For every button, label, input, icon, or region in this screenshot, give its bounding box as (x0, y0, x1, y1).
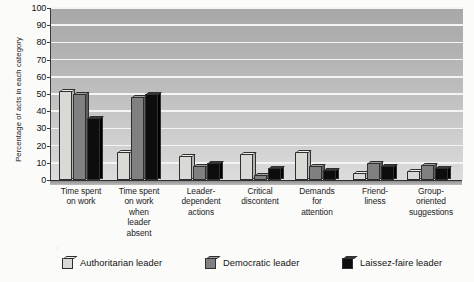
bar (73, 94, 86, 180)
x-axis-label-line: Leader- (167, 186, 235, 196)
y-tick-label: 10 (4, 158, 46, 168)
y-tick-label: 60 (4, 72, 46, 82)
x-axis-label-line: Time spent (105, 186, 173, 196)
legend-item: Authoritarian leader (62, 258, 162, 269)
x-axis-label-line: leader (105, 217, 173, 227)
y-tick-label: 40 (4, 106, 46, 116)
bar (207, 163, 220, 180)
plot-area (50, 8, 463, 180)
bar (240, 154, 253, 180)
bar-face (73, 94, 86, 180)
bar-face (179, 156, 192, 180)
y-tick-label: 20 (4, 141, 46, 151)
legend-label: Laissez-faire leader (360, 258, 442, 268)
bar (295, 152, 308, 180)
x-axis-label-line: absent (105, 228, 173, 238)
x-axis-label-line: suggestions (397, 207, 465, 217)
gridline (51, 42, 463, 44)
gridline (51, 7, 463, 9)
y-axis-ticks: 0102030405060708090100 (0, 8, 50, 180)
bar (381, 166, 394, 180)
bar-face (268, 168, 281, 180)
y-tick-label: 50 (4, 89, 46, 99)
gridline (51, 93, 463, 95)
bar-face (145, 94, 158, 180)
chart-legend: Authoritarian leaderDemocratic leaderLai… (50, 252, 462, 274)
bar-face (323, 170, 336, 180)
bar-side-face (158, 93, 161, 179)
x-axis-labels: Time spenton workTime spenton workwhenle… (50, 186, 462, 244)
bar-face (353, 173, 366, 180)
bar-face (367, 163, 380, 180)
x-axis-label: Group-orientedsuggestions (397, 186, 465, 217)
bar-face (240, 154, 253, 180)
bar-face (131, 97, 144, 180)
bar-face (117, 152, 130, 180)
legend-label: Authoritarian leader (80, 258, 162, 268)
bar-side-face (394, 165, 397, 179)
legend-swatch (205, 258, 216, 269)
bar-face (421, 165, 434, 180)
x-axis-label: Leader-dependentactions (167, 186, 235, 217)
gridline (51, 128, 463, 130)
bar-face (295, 152, 308, 180)
legend-item: Democratic leader (205, 258, 299, 269)
x-axis-label-line: attention (283, 207, 351, 217)
x-axis-label-line: oriented (397, 196, 465, 206)
bar-face (435, 168, 448, 180)
legend-swatch (62, 258, 73, 269)
bar-face (407, 171, 420, 180)
gridline (51, 145, 463, 147)
y-tick-label: 0 (4, 175, 46, 185)
chart-figure: Percentage of acts in each category 0102… (0, 0, 474, 282)
gridline (51, 24, 463, 26)
x-axis-label-line: on work (105, 196, 173, 206)
legend-swatch (342, 258, 353, 269)
bar (367, 163, 380, 180)
bar-side-face (220, 161, 223, 178)
legend-label: Democratic leader (223, 258, 299, 268)
bar (117, 152, 130, 180)
y-tick-label: 70 (4, 55, 46, 65)
bar-face (87, 118, 100, 180)
bar (87, 118, 100, 180)
bar-side-face (100, 117, 103, 179)
gridline (51, 162, 463, 164)
bar (179, 156, 192, 180)
bar-face (59, 91, 72, 180)
bar (59, 91, 72, 180)
y-tick-label: 90 (4, 20, 46, 30)
bar (131, 97, 144, 180)
bar (323, 170, 336, 180)
bar-face (309, 166, 322, 180)
bar (353, 173, 366, 180)
gridline (51, 76, 463, 78)
axis-baseline (50, 180, 462, 185)
gridline (51, 110, 463, 112)
bar (309, 166, 322, 180)
legend-item: Laissez-faire leader (342, 258, 442, 269)
gridline (51, 59, 463, 61)
bar-face (207, 163, 220, 180)
bar (407, 171, 420, 180)
x-axis-label: Time spenton workwhenleaderabsent (105, 186, 173, 238)
x-axis-label-line: actions (167, 207, 235, 217)
y-tick-label: 30 (4, 123, 46, 133)
bar-face (381, 166, 394, 180)
bar (435, 168, 448, 180)
y-tick-label: 80 (4, 37, 46, 47)
bar (193, 166, 206, 180)
x-axis-label-line: when (105, 207, 173, 217)
bar (145, 94, 158, 180)
bar (421, 165, 434, 180)
x-axis-label-line: dependent (167, 196, 235, 206)
x-axis-label-line: Group- (397, 186, 465, 196)
bar (268, 168, 281, 180)
y-tick-label: 100 (4, 3, 46, 13)
bar-face (193, 166, 206, 180)
